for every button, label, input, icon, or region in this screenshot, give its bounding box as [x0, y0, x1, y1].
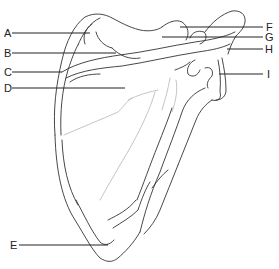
label-d: D — [4, 82, 12, 94]
label-a: A — [4, 27, 11, 39]
label-g: G — [265, 31, 274, 43]
scapula-diagram: A B C D E F G H I — [0, 0, 279, 269]
label-b: B — [4, 47, 11, 59]
label-e: E — [10, 239, 17, 251]
label-i: I — [267, 68, 270, 80]
label-c: C — [4, 66, 12, 78]
scapula-drawing — [0, 0, 279, 269]
label-h: H — [265, 43, 273, 55]
